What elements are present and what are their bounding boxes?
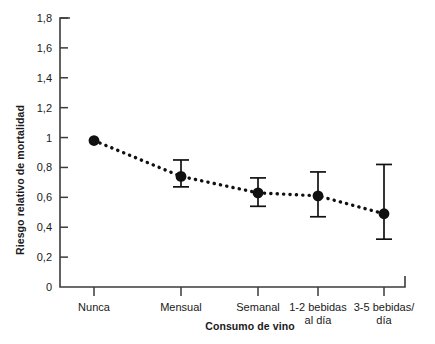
data-point-marker	[379, 208, 390, 219]
data-point-marker	[89, 135, 100, 146]
x-axis-title: Consumo de vino	[205, 320, 295, 332]
y-tick-label: 0,4	[37, 221, 52, 233]
data-point-marker	[176, 171, 187, 182]
y-tick-label: 1,8	[37, 12, 52, 24]
plot-background	[0, 0, 435, 344]
data-point-marker	[313, 190, 324, 201]
x-category-label: Nunca	[78, 301, 111, 313]
x-category-label: día	[376, 314, 392, 326]
x-category-label: al día	[305, 314, 333, 326]
y-tick-label: 1,4	[37, 72, 52, 84]
chart-figure: 00,20,40,60,811,21,41,61,8 NuncaMensualS…	[0, 0, 435, 344]
y-tick-label: 1,6	[37, 42, 52, 54]
y-axis-title: Riesgo relativo de mortalidad	[14, 105, 26, 255]
y-tick-label: 0,6	[37, 191, 52, 203]
x-category-label: Mensual	[160, 301, 202, 313]
y-tick-label: 1	[46, 132, 52, 144]
x-category-label: 1-2 bebidas	[289, 301, 347, 313]
y-tick-label: 1,2	[37, 102, 52, 114]
x-category-label: 3-5 bebidas/	[354, 301, 415, 313]
y-tick-label: 0	[46, 281, 52, 293]
mortality-risk-line-chart: 00,20,40,60,811,21,41,61,8 NuncaMensualS…	[0, 0, 435, 344]
data-point-marker	[253, 187, 264, 198]
y-tick-label: 0,2	[37, 251, 52, 263]
y-tick-label: 0,8	[37, 161, 52, 173]
x-category-label: Semanal	[236, 301, 279, 313]
